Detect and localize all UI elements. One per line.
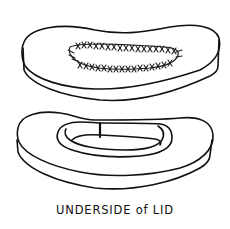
underside-of-lid-diagram: UNDERSIDE of LID	[0, 0, 230, 229]
lid-underside-view	[17, 112, 213, 189]
lid-illustration	[0, 0, 230, 229]
lid-top-view	[22, 25, 220, 100]
figure-caption: UNDERSIDE of LID	[0, 203, 230, 217]
